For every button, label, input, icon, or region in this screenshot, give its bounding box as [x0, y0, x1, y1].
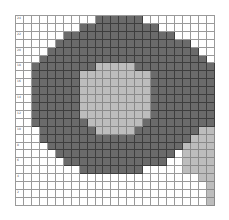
- grid-cell: [199, 166, 207, 174]
- grid-cell: [96, 95, 104, 103]
- grid-cell: [143, 16, 151, 24]
- grid-cell: [80, 32, 88, 40]
- grid-cell: [119, 48, 127, 56]
- grid-cell: [119, 174, 127, 182]
- grid-cell: [135, 48, 143, 56]
- grid-cell: [143, 190, 151, 198]
- grid-cell: [183, 71, 191, 79]
- grid-cell: [32, 111, 40, 119]
- grid-cell: [135, 143, 143, 151]
- grid-cell: [80, 24, 88, 32]
- grid-cell: [183, 190, 191, 198]
- grid-cell: [64, 32, 72, 40]
- grid-cell: [191, 56, 199, 64]
- grid-cell: [24, 119, 32, 127]
- grid-cell: [167, 158, 175, 166]
- grid-cell: [32, 71, 40, 79]
- grid-cell: [175, 135, 183, 143]
- grid-cell: [151, 87, 159, 95]
- grid-cell: [56, 48, 64, 56]
- grid-cell: [16, 71, 24, 79]
- grid-cell: [40, 40, 48, 48]
- grid-cell: [88, 56, 96, 64]
- grid-cell: [199, 79, 207, 87]
- grid-cell: [40, 190, 48, 198]
- grid-cell: [135, 119, 143, 127]
- grid-cell: [191, 158, 199, 166]
- grid-cell: [127, 127, 135, 135]
- grid-cell: [151, 143, 159, 151]
- grid-cell: [183, 111, 191, 119]
- grid-cell: [127, 150, 135, 158]
- grid-cell: [56, 158, 64, 166]
- grid-cell: [159, 127, 167, 135]
- grid-cell: [96, 103, 104, 111]
- grid-cell: [199, 174, 207, 182]
- grid-cell: [64, 103, 72, 111]
- grid-cell: [48, 24, 56, 32]
- grid-cell: [143, 40, 151, 48]
- grid-cell: [159, 48, 167, 56]
- grid-cell: [88, 32, 96, 40]
- grid-cell: [207, 150, 215, 158]
- grid-cell: [48, 150, 56, 158]
- grid-cell: [151, 79, 159, 87]
- grid-cell: [111, 190, 119, 198]
- grid-cell: [88, 198, 96, 206]
- grid-cell: [48, 103, 56, 111]
- grid-cell: [48, 166, 56, 174]
- grid-cell: [143, 95, 151, 103]
- grid-cell: [48, 119, 56, 127]
- grid-cell: [96, 111, 104, 119]
- grid-cell: [88, 16, 96, 24]
- grid-cell: [72, 174, 80, 182]
- grid-cell: [175, 32, 183, 40]
- grid-cell: [80, 127, 88, 135]
- grid-cell: [24, 48, 32, 56]
- grid-cell: [159, 16, 167, 24]
- grid-cell: [151, 48, 159, 56]
- grid-cell: 14: [16, 95, 24, 103]
- grid-cell: [88, 40, 96, 48]
- grid-cell: [72, 182, 80, 190]
- grid-cell: [103, 71, 111, 79]
- grid-cell: [127, 63, 135, 71]
- grid-cell: [135, 198, 143, 206]
- grid-cell: [175, 119, 183, 127]
- grid-cell: [207, 63, 215, 71]
- grid-cell: [143, 71, 151, 79]
- grid-cell: [135, 16, 143, 24]
- grid-cell: [167, 143, 175, 151]
- grid-cell: [143, 174, 151, 182]
- grid-cell: [119, 24, 127, 32]
- grid-cell: [135, 166, 143, 174]
- grid-cell: [96, 190, 104, 198]
- grid-cell: [103, 190, 111, 198]
- grid-cell: [135, 32, 143, 40]
- grid-cell: [96, 143, 104, 151]
- grid-cell: [48, 135, 56, 143]
- grid-cell: [183, 48, 191, 56]
- grid-cell: [183, 56, 191, 64]
- grid-cell: [159, 56, 167, 64]
- grid-cell: [191, 24, 199, 32]
- grid-cell: [80, 182, 88, 190]
- grid-cell: [199, 24, 207, 32]
- grid-cell: [24, 143, 32, 151]
- grid-cell: [127, 166, 135, 174]
- grid-cell: [143, 198, 151, 206]
- grid-cell: [103, 119, 111, 127]
- grid-cell: [191, 32, 199, 40]
- row-label: 18: [17, 64, 21, 67]
- grid-cell: [24, 198, 32, 206]
- grid-cell: [183, 150, 191, 158]
- grid-cell: [199, 198, 207, 206]
- grid-cell: [88, 127, 96, 135]
- grid-cell: [56, 174, 64, 182]
- grid-cell: [103, 198, 111, 206]
- grid-cell: [191, 111, 199, 119]
- grid-cell: [111, 158, 119, 166]
- grid-cell: [183, 174, 191, 182]
- grid-cell: [143, 63, 151, 71]
- grid-cell: [24, 182, 32, 190]
